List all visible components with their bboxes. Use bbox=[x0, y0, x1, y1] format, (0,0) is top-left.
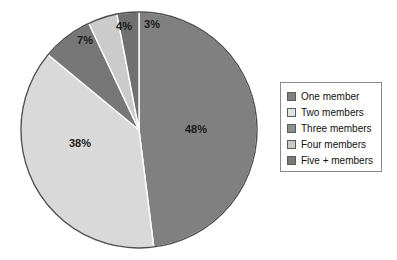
legend-swatch-icon bbox=[287, 92, 296, 101]
legend-item[interactable]: Two members bbox=[287, 104, 377, 120]
pie-chart-figure: 48%38%7%4%3% One memberTwo membersThree … bbox=[0, 0, 397, 260]
pie-slice-label: 3% bbox=[144, 18, 160, 30]
legend-swatch-icon bbox=[287, 108, 296, 117]
legend-item-label: Five + members bbox=[301, 155, 373, 166]
pie-slice-label: 48% bbox=[185, 123, 207, 135]
legend-item-label: One member bbox=[301, 91, 359, 102]
legend-item-label: Four members bbox=[301, 139, 366, 150]
chart-legend: One memberTwo membersThree membersFour m… bbox=[280, 82, 382, 172]
pie-slice-label: 4% bbox=[116, 20, 132, 32]
legend-swatch-icon bbox=[287, 156, 296, 165]
legend-swatch-icon bbox=[287, 124, 296, 133]
legend-item[interactable]: One member bbox=[287, 88, 377, 104]
legend-item-label: Three members bbox=[301, 123, 372, 134]
legend-item[interactable]: Four members bbox=[287, 136, 377, 152]
pie-slice-label: 7% bbox=[77, 34, 93, 46]
legend-swatch-icon bbox=[287, 140, 296, 149]
legend-item[interactable]: Five + members bbox=[287, 152, 377, 168]
pie-slice-label: 38% bbox=[69, 137, 91, 149]
legend-item[interactable]: Three members bbox=[287, 120, 377, 136]
legend-item-label: Two members bbox=[301, 107, 364, 118]
